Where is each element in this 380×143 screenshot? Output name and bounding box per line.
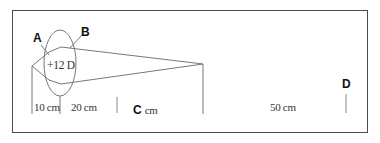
distance-50cm: 50 cm	[270, 101, 296, 113]
ray-diagram-lines	[0, 0, 380, 143]
lens-power-label: +12 D	[47, 59, 75, 71]
distance-10cm: 10 cm	[34, 101, 60, 113]
label-d: D	[342, 77, 351, 91]
distance-c-cm: Ccm	[133, 100, 158, 118]
label-b: B	[81, 25, 90, 39]
ray-diagram: A B +12 D 10 cm 20 cm Ccm 50 cm D	[0, 0, 380, 143]
distance-c-letter: C	[133, 103, 142, 117]
label-a: A	[33, 31, 42, 45]
distance-c-unit: cm	[145, 104, 158, 116]
distance-20cm: 20 cm	[71, 101, 97, 113]
